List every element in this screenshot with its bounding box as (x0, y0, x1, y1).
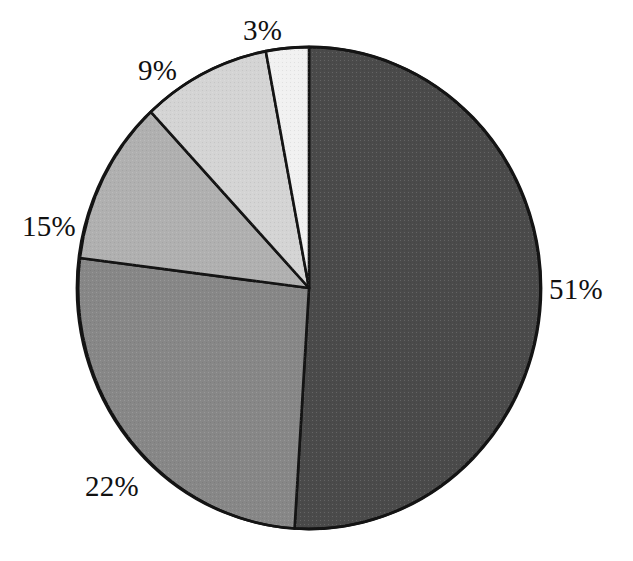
pie-label-22: 22% (85, 472, 139, 501)
pie-slice-51-texture (295, 47, 541, 529)
pie-label-51: 51% (549, 275, 603, 304)
pie-label-15: 15% (22, 212, 76, 241)
pie-label-3: 3% (243, 16, 282, 45)
pie-chart-figure: 3% 9% 15% 22% 51% (0, 0, 633, 561)
pie-slice-51[interactable] (295, 47, 541, 529)
pie-label-9: 9% (138, 56, 177, 85)
